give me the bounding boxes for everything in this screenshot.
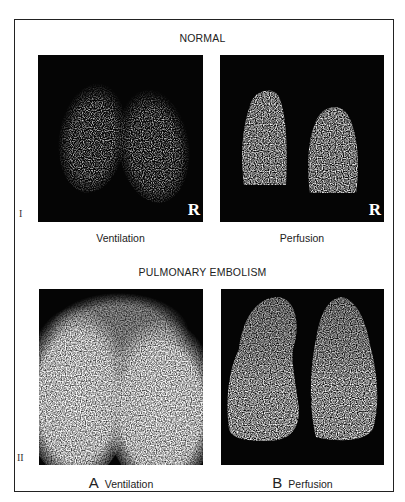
panel-letter-a: A: [89, 474, 99, 491]
lung-scan-image: [39, 289, 203, 465]
scan-pe-ventilation: [39, 289, 203, 465]
section-label-ii: II: [17, 452, 24, 463]
scan-normal-ventilation: R: [38, 55, 203, 222]
lung-scan-image: [220, 55, 384, 222]
lung-scan-image: [221, 289, 384, 465]
caption-text: Ventilation: [105, 478, 153, 490]
lung-scan-image: [38, 55, 203, 222]
section-title-pulmonary-embolism: PULMONARY EMBOLISM: [0, 266, 405, 278]
section-title-normal: NORMAL: [0, 32, 405, 44]
caption-text: Perfusion: [288, 478, 332, 490]
orientation-marker-r: R: [188, 200, 200, 220]
scan-pe-perfusion: [221, 289, 384, 465]
caption-pe-perfusion: BPerfusion: [221, 474, 384, 491]
caption-normal-perfusion: Perfusion: [220, 232, 384, 244]
panel-letter-b: B: [272, 474, 282, 491]
scan-normal-perfusion: R: [220, 55, 384, 222]
section-label-i: I: [19, 208, 22, 219]
caption-normal-ventilation: Ventilation: [38, 232, 203, 244]
orientation-marker-r: R: [369, 200, 381, 220]
caption-pe-ventilation: AVentilation: [39, 474, 203, 491]
